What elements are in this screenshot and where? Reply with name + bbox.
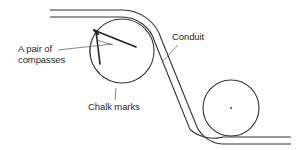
- chalk-marks-label: Chalk marks: [88, 101, 140, 112]
- conduit-bending-diagram: [0, 0, 306, 150]
- compasses-label-line2: compasses: [18, 54, 65, 65]
- compasses-leader-line: [58, 44, 112, 50]
- compasses-icon: [94, 30, 136, 64]
- upper-drum: [90, 19, 154, 83]
- lower-drum-center-dot: [230, 107, 232, 109]
- compasses-label-line1: A pair of: [18, 43, 52, 54]
- conduit-outer-wall: [50, 10, 291, 144]
- conduit-label: Conduit: [172, 31, 204, 42]
- chalk-marks-leader-line: [115, 88, 116, 100]
- conduit-inner-wall: [50, 17, 291, 138]
